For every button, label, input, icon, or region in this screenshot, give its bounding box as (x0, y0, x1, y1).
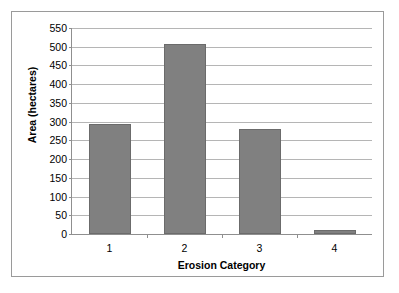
bar[interactable] (164, 44, 206, 234)
y-tick-label: 550 (49, 22, 67, 34)
x-tick-label: 4 (332, 242, 338, 254)
x-tick-mark (222, 234, 223, 238)
bar-slot (222, 28, 297, 234)
y-tick-label: 50 (55, 209, 67, 221)
bar[interactable] (239, 129, 281, 234)
x-tick-label: 3 (257, 242, 263, 254)
x-tick-mark (147, 234, 148, 238)
y-tick-label: 100 (49, 191, 67, 203)
bar-slot (72, 28, 147, 234)
x-tick-label: 2 (182, 242, 188, 254)
y-tick-label: 450 (49, 59, 67, 71)
x-tick-mark (297, 234, 298, 238)
y-tick-label: 150 (49, 172, 67, 184)
plot-area: 050100150200250300350400450500550 1234 (71, 28, 372, 235)
bar[interactable] (314, 230, 356, 234)
y-tick-mark (69, 234, 72, 235)
bar[interactable] (89, 124, 131, 234)
x-tick-label: 1 (107, 242, 113, 254)
y-tick-label: 300 (49, 116, 67, 128)
y-tick-label: 350 (49, 97, 67, 109)
bars-layer (72, 28, 372, 234)
chart-figure: Area (hectares) 050100150200250300350400… (11, 11, 384, 277)
x-axis-title: Erosion Category (71, 259, 372, 271)
y-tick-label: 250 (49, 134, 67, 146)
y-tick-label: 500 (49, 41, 67, 53)
bar-slot (147, 28, 222, 234)
bar-slot (297, 28, 372, 234)
y-tick-label: 200 (49, 153, 67, 165)
y-tick-label: 0 (61, 228, 67, 240)
y-tick-label: 400 (49, 78, 67, 90)
y-axis-title: Area (hectares) (23, 25, 41, 185)
